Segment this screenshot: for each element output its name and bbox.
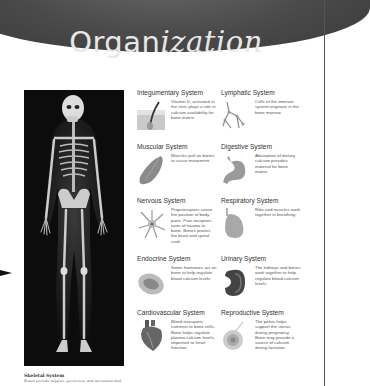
system-card-nervous: Nervous System Proprioceptors sense the … xyxy=(137,197,219,204)
system-card-cardiovascular: Cardiovascular System Blood transports n… xyxy=(137,309,219,316)
caption-title: Skeletal System xyxy=(24,373,134,378)
heart-icon xyxy=(137,320,167,352)
lymph-vessels-icon xyxy=(221,100,251,132)
system-name: Nervous System xyxy=(137,197,219,204)
stomach-icon xyxy=(221,154,251,186)
system-card-urinary: Urinary System The kidneys and bones wor… xyxy=(221,255,303,262)
system-desc: Blood transports nutrients to bone cells… xyxy=(171,319,217,351)
title-regular: Organ xyxy=(69,25,160,59)
system-card-respiratory: Respiratory System Ribs and muscles work… xyxy=(221,197,303,204)
system-desc: The pelvis helps support the uterus duri… xyxy=(255,319,301,351)
system-card-integumentary: Integumentary System Vitamin D, activate… xyxy=(137,89,219,96)
system-name: Endocrine System xyxy=(137,255,219,262)
system-desc: Vitamin D, activated in the skin, plays … xyxy=(171,99,217,120)
system-card-digestive: Digestive System Absorption of dietary c… xyxy=(221,143,303,150)
skeleton-icon xyxy=(24,90,124,366)
title-italic: ization xyxy=(160,25,262,59)
system-name: Urinary System xyxy=(221,255,303,262)
system-desc: Absorption of dietary calcium provides m… xyxy=(255,153,301,174)
pointer-arrow-icon xyxy=(0,270,12,276)
system-name: Digestive System xyxy=(221,143,303,150)
thyroid-icon xyxy=(137,266,167,298)
system-name: Muscular System xyxy=(137,143,219,150)
muscle-icon xyxy=(137,154,167,186)
system-name: Reproductive System xyxy=(221,309,303,316)
kidney-icon xyxy=(221,266,251,298)
skeleton-caption: Skeletal System Bones provide support, p… xyxy=(24,373,134,383)
system-name: Integumentary System xyxy=(137,89,219,96)
neuron-icon xyxy=(137,208,167,240)
page-edge-rule xyxy=(324,0,325,386)
system-name: Respiratory System xyxy=(221,197,303,204)
system-name: Lymphatic System xyxy=(221,89,303,96)
system-card-reproductive: Reproductive System The pelvis helps sup… xyxy=(221,309,303,316)
caption-text: Bones provide support, protection, and m… xyxy=(24,379,134,383)
system-card-muscular: Muscular System Muscles pull on bones to… xyxy=(137,143,219,150)
system-desc: Muscles pull on bones to cause movement. xyxy=(171,153,217,164)
system-desc: Proprioceptors sense the position of bod… xyxy=(171,207,217,244)
lung-icon xyxy=(221,208,251,240)
system-name: Cardiovascular System xyxy=(137,309,219,316)
system-desc: The kidneys and bones work together to h… xyxy=(255,265,301,286)
system-desc: Some hormones act on bone to help regula… xyxy=(171,265,217,281)
skeleton-image xyxy=(24,90,124,366)
system-card-lymphatic: Lymphatic System Cells of the immune sys… xyxy=(221,89,303,96)
system-desc: Cells of the immune system originate in … xyxy=(255,99,301,115)
page-title: Organization xyxy=(0,25,332,59)
system-card-endocrine: Endocrine System Some hormones act on bo… xyxy=(137,255,219,262)
ovum-icon xyxy=(221,320,251,352)
system-desc: Ribs and muscles work together in breath… xyxy=(255,207,301,218)
skin-hair-icon xyxy=(137,100,167,132)
